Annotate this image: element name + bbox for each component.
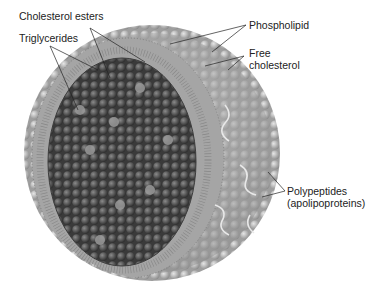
label-phospholipid: Phospholipid <box>249 19 309 31</box>
label-cholesterol-esters: Cholesterol esters <box>19 10 104 22</box>
label-free-cholesterol-1: Free <box>249 47 271 59</box>
label-polypeptides-2: (apolipoproteins) <box>287 197 365 209</box>
label-free-cholesterol-2: cholesterol <box>249 59 300 71</box>
lipid-core <box>48 58 196 266</box>
label-polypeptides-1: Polypeptides <box>287 185 347 197</box>
label-triglycerides: Triglycerides <box>19 32 78 44</box>
